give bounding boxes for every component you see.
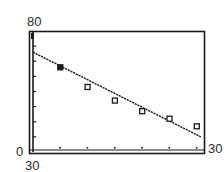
data-point	[194, 124, 199, 129]
calculator-plot	[0, 0, 224, 172]
data-point	[167, 116, 172, 121]
x-tick	[59, 147, 61, 149]
data-point	[112, 98, 117, 103]
x-tick	[141, 147, 143, 149]
cursor-mark	[31, 33, 34, 39]
x-axis-ticks	[59, 147, 197, 149]
x-tick	[114, 147, 116, 149]
plot-frame	[30, 32, 205, 154]
x-tick	[87, 147, 89, 149]
data-point	[85, 84, 90, 89]
x-tick	[196, 147, 198, 149]
data-point	[140, 109, 145, 114]
x-tick	[169, 147, 171, 149]
data-points	[58, 65, 200, 129]
data-point	[58, 65, 63, 70]
